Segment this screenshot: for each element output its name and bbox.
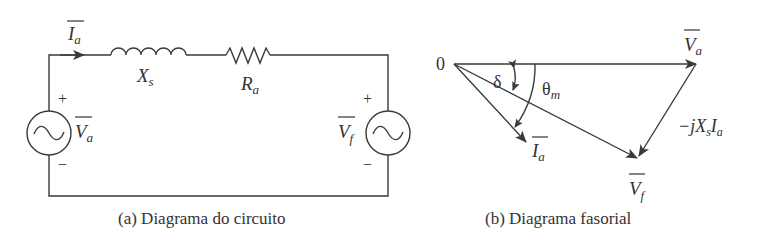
current-label: Ia bbox=[67, 23, 81, 47]
inductor-icon bbox=[111, 48, 186, 55]
right-minus-sign: − bbox=[363, 156, 372, 173]
theta-label: θm bbox=[542, 79, 560, 102]
circuit-caption: (a) Diagrama do circuito bbox=[118, 209, 286, 228]
va-label: Va bbox=[684, 34, 703, 58]
ac-source-left bbox=[27, 111, 71, 155]
right-source-label: Vf bbox=[338, 121, 356, 146]
vf-label: Vf bbox=[629, 178, 647, 203]
right-plus-sign: + bbox=[363, 90, 372, 107]
ia-label: Ia bbox=[531, 140, 545, 164]
drop-label: −jXsIa bbox=[678, 116, 723, 139]
left-plus-sign: + bbox=[58, 90, 67, 107]
phasor-caption: (b) Diagrama fasorial bbox=[485, 209, 632, 228]
phasor-diagram: 0 δ θm Va Ia Vf −jXsIa (b) Diagrama faso… bbox=[436, 30, 723, 228]
sine-wave-icon bbox=[373, 126, 403, 139]
left-minus-sign: − bbox=[58, 156, 67, 173]
wire-right-lower bbox=[49, 155, 388, 196]
inductor-label: Xs bbox=[136, 65, 154, 89]
figure: Ia Xs Ra + − Va + − Vf (a) Diagrama do c… bbox=[0, 0, 761, 238]
circuit-diagram: Ia Xs Ra + − Va + − Vf (a) Diagrama do c… bbox=[27, 21, 410, 228]
resistor-label: Ra bbox=[240, 73, 260, 97]
delta-angle-arc bbox=[513, 68, 515, 90]
phasor-drop-arrow bbox=[639, 64, 696, 156]
delta-label: δ bbox=[493, 72, 501, 92]
resistor-icon bbox=[226, 48, 270, 63]
left-source-label: Va bbox=[75, 121, 94, 145]
origin-label: 0 bbox=[436, 54, 445, 74]
sine-wave-icon bbox=[34, 126, 64, 139]
theta-angle-arc bbox=[515, 64, 535, 127]
ac-source-right bbox=[366, 111, 410, 155]
